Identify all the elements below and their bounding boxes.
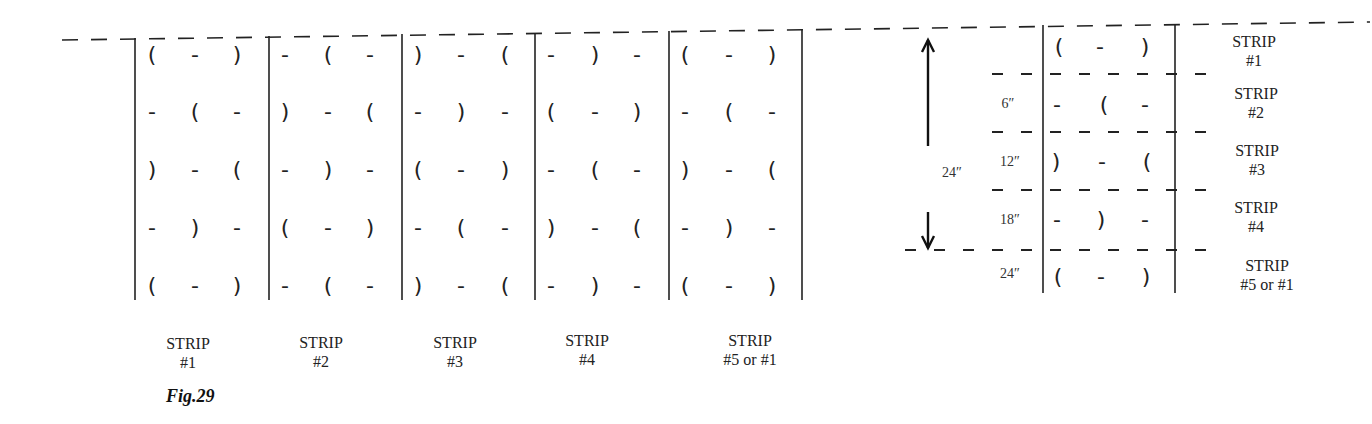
- symbol: ): [1141, 36, 1150, 58]
- strip-number: #5 or #1: [1240, 275, 1293, 294]
- symbol: (: [1143, 151, 1152, 173]
- symbol: -: [725, 159, 733, 181]
- strip-label-1: STRIP #1: [166, 334, 210, 372]
- symbol: ): [366, 217, 375, 239]
- symbol: -: [681, 101, 689, 123]
- symbol: -: [281, 159, 289, 181]
- symbol: (: [148, 275, 157, 297]
- symbol: -: [324, 101, 332, 123]
- symbol: (: [633, 217, 642, 239]
- symbol: ): [633, 101, 642, 123]
- symbol: -: [547, 275, 555, 297]
- right-strip-label-4: STRIP #4: [1234, 198, 1278, 236]
- figure-caption: Fig.29: [166, 386, 215, 407]
- symbol: -: [591, 217, 599, 239]
- symbol: ): [414, 44, 423, 66]
- symbol: -: [1053, 209, 1061, 231]
- strip-number: #3: [433, 352, 477, 371]
- symbol: -: [768, 101, 776, 123]
- symbol: (: [233, 159, 242, 181]
- symbol: ): [768, 275, 777, 297]
- symbol: (: [1055, 36, 1064, 58]
- symbol: (: [501, 275, 510, 297]
- symbol: ): [768, 44, 777, 66]
- symbol: -: [591, 101, 599, 123]
- symbol: -: [281, 275, 289, 297]
- symbol: -: [324, 217, 332, 239]
- symbol: -: [501, 217, 509, 239]
- dimension-arrow: [922, 40, 934, 248]
- symbol: ): [191, 217, 200, 239]
- symbol: -: [191, 159, 199, 181]
- symbol: -: [457, 159, 465, 181]
- symbol: (: [281, 217, 290, 239]
- right-strip-label-5: STRIP #5 or #1: [1240, 256, 1293, 294]
- symbol: ): [1142, 266, 1151, 288]
- symbol: -: [414, 217, 422, 239]
- symbol: -: [547, 44, 555, 66]
- offset-label: 6″: [1002, 96, 1015, 112]
- symbol: -: [681, 217, 689, 239]
- symbol: -: [1098, 151, 1106, 173]
- symbol: -: [501, 101, 509, 123]
- strip-label-text: STRIP: [433, 333, 477, 352]
- symbol: ): [547, 217, 556, 239]
- strip-label-4: STRIP #4: [565, 331, 609, 369]
- symbol: -: [1141, 94, 1149, 116]
- symbol: ): [457, 101, 466, 123]
- strip-label-text: STRIP: [1232, 32, 1276, 51]
- symbol: (: [457, 217, 466, 239]
- symbol: (: [324, 44, 333, 66]
- symbol: (: [366, 101, 375, 123]
- symbol: ): [233, 44, 242, 66]
- symbol: ): [681, 159, 690, 181]
- symbol: ): [501, 159, 510, 181]
- offset-label: 24″: [1000, 266, 1020, 282]
- strip-label-text: STRIP: [299, 333, 343, 352]
- symbol: (: [191, 101, 200, 123]
- symbol: -: [148, 217, 156, 239]
- offset-label: 12″: [1000, 154, 1020, 170]
- symbol: -: [768, 217, 776, 239]
- symbol: ): [591, 44, 600, 66]
- symbol: -: [1097, 266, 1105, 288]
- top-dashed-line: [62, 22, 1370, 40]
- symbol: -: [191, 44, 199, 66]
- strip-label-text: STRIP: [1240, 256, 1293, 275]
- strip-label-2: STRIP #2: [299, 333, 343, 371]
- strip-label-text: STRIP: [723, 331, 776, 350]
- symbol: (: [547, 101, 556, 123]
- symbol: (: [148, 44, 157, 66]
- symbol: ): [725, 217, 734, 239]
- symbol: -: [366, 275, 374, 297]
- symbol: -: [1053, 94, 1061, 116]
- symbol: (: [1100, 94, 1109, 116]
- symbol: -: [233, 101, 241, 123]
- strip-label-text: STRIP: [166, 334, 210, 353]
- symbol: ): [414, 275, 423, 297]
- symbol: ): [1097, 209, 1106, 231]
- symbol: -: [547, 159, 555, 181]
- right-strip-label-2: STRIP #2: [1234, 84, 1278, 122]
- symbol: ): [591, 275, 600, 297]
- symbol: -: [414, 101, 422, 123]
- symbol: (: [324, 275, 333, 297]
- strip-number: #2: [299, 352, 343, 371]
- symbol: -: [366, 159, 374, 181]
- symbol: -: [233, 217, 241, 239]
- symbol: (: [681, 275, 690, 297]
- strip-label-text: STRIP: [1234, 84, 1278, 103]
- symbol: (: [591, 159, 600, 181]
- symbol: (: [414, 159, 423, 181]
- symbol: -: [1141, 209, 1149, 231]
- offset-label: 18″: [1000, 212, 1020, 228]
- right-strip-dividers: [1043, 24, 1175, 293]
- symbol: -: [725, 44, 733, 66]
- symbol: -: [366, 44, 374, 66]
- symbol: (: [1054, 266, 1063, 288]
- symbol: -: [633, 275, 641, 297]
- strip-label-text: STRIP: [565, 331, 609, 350]
- strip-number: #1: [166, 353, 210, 372]
- symbol: (: [681, 44, 690, 66]
- strip-number: #3: [1235, 160, 1279, 179]
